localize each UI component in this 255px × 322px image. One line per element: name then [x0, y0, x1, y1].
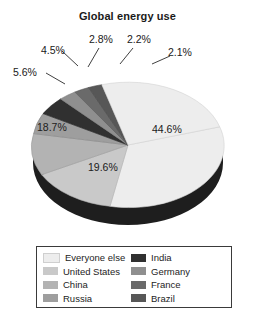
legend-item-brazil: Brazil [131, 292, 227, 306]
pie-value-label: 18.7% [37, 121, 67, 133]
legend-swatch-india [131, 254, 146, 262]
pie-value-label: 44.6% [152, 123, 182, 135]
legend-swatch-everyone-else [43, 253, 60, 263]
legend-swatch-russia [43, 294, 58, 302]
pie-value-label: 2.1% [168, 46, 192, 58]
legend-swatch-france [131, 281, 146, 289]
legend-label: India [151, 252, 172, 263]
legend-swatch-germany [131, 267, 146, 275]
legend-label: China [63, 279, 88, 290]
pie-value-label: 4.5% [41, 44, 65, 56]
chart-legend: Everyone else India United States German… [36, 246, 232, 308]
legend-label: France [151, 279, 181, 290]
legend-label: United States [63, 266, 120, 277]
legend-item-germany: Germany [131, 265, 227, 279]
legend-item-everyone-else: Everyone else [43, 251, 131, 265]
leader-line-5-6 [46, 73, 65, 84]
pie-value-label: 5.6% [13, 66, 37, 78]
legend-item-india: India [131, 251, 227, 265]
legend-item-china: China [43, 278, 131, 292]
legend-label: Germany [151, 266, 190, 277]
pie-value-label: 2.2% [127, 33, 151, 45]
pie-value-label: 19.6% [88, 161, 118, 173]
legend-label: Brazil [151, 293, 175, 304]
legend-label: Everyone else [65, 252, 125, 263]
legend-swatch-united-states [43, 267, 58, 275]
leader-line-2-8 [88, 48, 99, 67]
pie-chart-figure: Global energy use 4.5% 2.8% 2.2% 2.1% 5.… [0, 0, 255, 322]
leader-line-2-2 [120, 48, 133, 64]
chart-title: Global energy use [0, 10, 255, 22]
pie-chart-graphic [0, 26, 255, 241]
legend-swatch-china [43, 281, 58, 289]
legend-item-united-states: United States [43, 265, 131, 279]
legend-item-france: France [131, 278, 227, 292]
pie-value-label: 2.8% [89, 33, 113, 45]
legend-swatch-brazil [131, 294, 146, 302]
legend-label: Russia [63, 293, 92, 304]
legend-item-russia: Russia [43, 292, 131, 306]
